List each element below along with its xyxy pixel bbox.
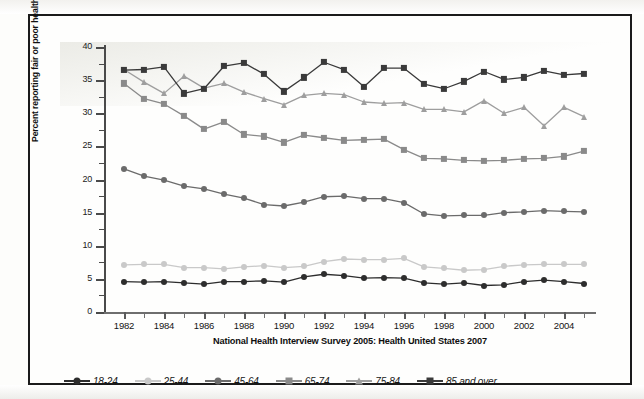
marker-circle (121, 279, 127, 285)
marker-circle (181, 265, 187, 271)
marker-square (261, 71, 267, 77)
marker-circle (361, 196, 367, 202)
marker-square (161, 64, 167, 70)
legend-item-45-64[interactable]: 45-64 (205, 375, 259, 387)
y-tick-major (96, 279, 104, 281)
marker-circle (381, 257, 387, 263)
marker-circle (581, 261, 587, 267)
marker-triangle (341, 92, 347, 98)
series-line-25-44 (124, 258, 584, 270)
marker-square (361, 137, 367, 143)
marker-circle (241, 195, 247, 201)
marker-circle (201, 186, 207, 192)
marker-circle (561, 208, 567, 214)
x-tick-label: 1992 (304, 320, 344, 331)
marker-circle (501, 282, 507, 288)
x-tick-minor (384, 312, 385, 318)
legend-swatch (276, 375, 302, 387)
legend-swatch (64, 375, 90, 387)
marker-triangle (521, 104, 527, 110)
y-tick-major (96, 47, 104, 49)
x-tick-major (324, 312, 326, 319)
y-tick-label: 15 (70, 207, 92, 217)
legend-label: 18-24 (93, 376, 118, 387)
marker-square (426, 378, 433, 385)
marker-circle (461, 280, 467, 286)
marker-circle (441, 265, 447, 271)
marker-triangle (181, 73, 187, 79)
marker-circle (481, 212, 487, 218)
marker-square (461, 78, 467, 84)
marker-circle (281, 203, 287, 209)
marker-circle (541, 261, 547, 267)
marker-circle (561, 279, 567, 285)
marker-square (341, 137, 347, 143)
x-tick-minor (344, 312, 345, 318)
marker-circle (301, 274, 307, 280)
y-tick-label: 20 (70, 174, 92, 184)
marker-circle (301, 263, 307, 269)
marker-triangle (221, 80, 227, 86)
marker-circle (461, 267, 467, 273)
x-tick-minor (184, 312, 185, 318)
marker-circle (521, 279, 527, 285)
legend-item-65-74[interactable]: 65-74 (276, 375, 330, 387)
x-tick-label: 2002 (504, 320, 544, 331)
marker-circle (301, 199, 307, 205)
marker-circle (261, 202, 267, 208)
x-tick-major (564, 312, 566, 319)
marker-square (521, 74, 527, 80)
y-tick-major (96, 113, 104, 115)
marker-circle (401, 255, 407, 261)
series-line-65-74 (124, 83, 584, 161)
marker-circle (141, 261, 147, 267)
marker-circle (381, 275, 387, 281)
marker-triangle (581, 114, 587, 120)
marker-square (141, 66, 147, 72)
marker-circle (501, 210, 507, 216)
marker-triangle (321, 90, 327, 96)
marker-circle (241, 279, 247, 285)
marker-circle (141, 173, 147, 179)
legend-swatch (135, 375, 161, 387)
marker-circle (401, 275, 407, 281)
marker-circle (181, 280, 187, 286)
x-tick-major (204, 312, 206, 319)
marker-square (285, 378, 292, 385)
series-line-45-64 (124, 169, 584, 216)
marker-circle (321, 259, 327, 265)
legend-item-85-and-over[interactable]: 85 and over (417, 375, 497, 387)
marker-circle (221, 279, 227, 285)
marker-circle (281, 265, 287, 271)
series-lines (104, 47, 594, 312)
marker-square (441, 86, 447, 92)
marker-circle (321, 271, 327, 277)
marker-triangle (441, 106, 447, 112)
x-tick-label: 1984 (144, 320, 184, 331)
x-tick-major (124, 312, 126, 319)
marker-square (121, 67, 127, 73)
marker-triangle (241, 89, 247, 95)
series-line-18-24 (124, 274, 584, 285)
legend-item-18-24[interactable]: 18-24 (64, 375, 118, 387)
legend-item-25-44[interactable]: 25-44 (135, 375, 189, 387)
marker-square (281, 88, 287, 94)
x-tick-minor (144, 312, 145, 318)
marker-circle (261, 263, 267, 269)
marker-circle (201, 265, 207, 271)
marker-triangle (355, 378, 363, 385)
marker-circle (521, 209, 527, 215)
y-tick-label: 5 (70, 273, 92, 283)
marker-square (301, 132, 307, 138)
source-caption: National Health Interview Survey 2005: H… (104, 336, 596, 346)
marker-square (501, 76, 507, 82)
x-tick-minor (504, 312, 505, 318)
y-tick-label: 30 (70, 107, 92, 117)
marker-square (181, 90, 187, 96)
legend-swatch (417, 375, 443, 387)
legend-label: 45-64 (234, 376, 259, 387)
marker-circle (521, 262, 527, 268)
legend-label: 85 and over (446, 376, 497, 387)
legend-item-75-84[interactable]: 75-84 (346, 375, 400, 387)
x-tick-minor (304, 312, 305, 318)
